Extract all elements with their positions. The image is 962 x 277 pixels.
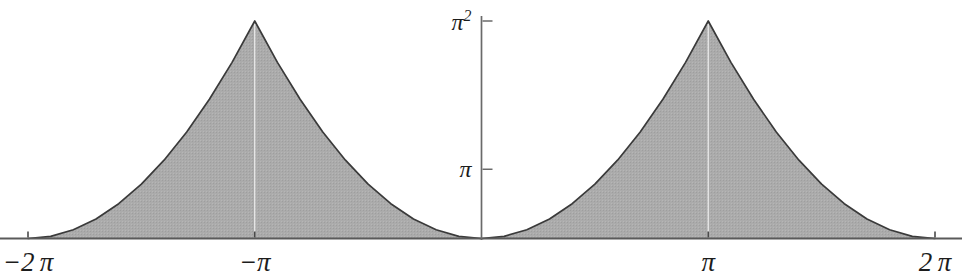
chart-plot-area — [0, 0, 962, 277]
y-tick-label-1: π2 — [0, 8, 472, 34]
x-tick-label-1: −2 π — [3, 249, 54, 276]
y-tick-label-base-1: π — [452, 9, 464, 35]
y-tick-label-base-2: π — [459, 156, 471, 182]
x-tick-label-4: 2 π — [919, 249, 951, 276]
x-tick-label-3: π — [701, 249, 715, 276]
chart-figure: −2 π−ππ2 π π2π — [0, 0, 962, 277]
y-tick-label-exponent-1: 2 — [464, 7, 472, 24]
y-tick-label-2: π — [0, 157, 472, 181]
y-tick-marks — [483, 21, 493, 169]
x-tick-label-2: −π — [239, 249, 271, 276]
